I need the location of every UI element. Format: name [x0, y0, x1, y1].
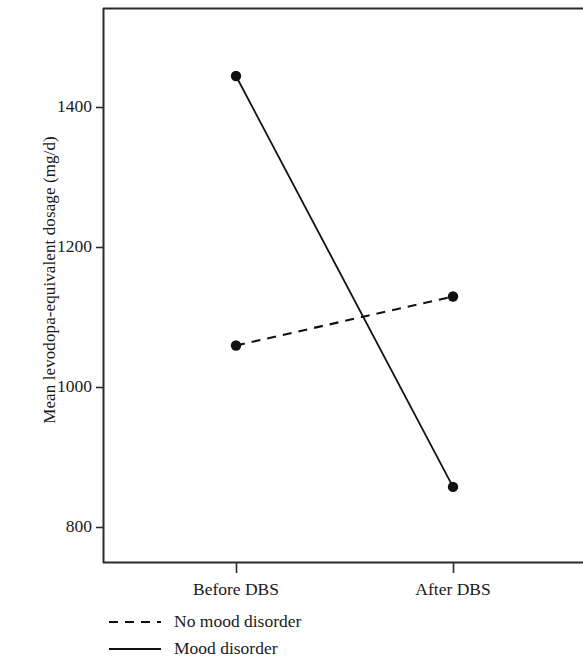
chart-figure: Mean levodopa-equivalent dosage (mg/d) 1… — [0, 0, 583, 664]
plot-canvas — [0, 0, 583, 664]
legend-solid-line-icon — [108, 642, 162, 656]
series-mood-disorder-line — [236, 76, 453, 487]
legend-label-no-mood-disorder: No mood disorder — [174, 613, 301, 631]
data-point-no-mood-disorder-after — [448, 291, 458, 301]
legend-dashed-line-icon — [108, 615, 162, 629]
series-no-mood-disorder — [231, 291, 458, 350]
y-tick-marks — [96, 108, 103, 528]
legend-item-no-mood-disorder: No mood disorder — [108, 608, 301, 635]
x-tick-marks — [237, 563, 454, 573]
data-point-mood-disorder-after — [448, 482, 458, 492]
legend: No mood disorder Mood disorder — [108, 608, 301, 662]
data-point-no-mood-disorder-before — [231, 340, 241, 350]
axes-frame — [103, 8, 583, 563]
data-point-mood-disorder-before — [231, 71, 241, 81]
legend-item-mood-disorder: Mood disorder — [108, 635, 301, 662]
legend-label-mood-disorder: Mood disorder — [174, 640, 278, 658]
series-mood-disorder — [231, 71, 458, 492]
series-no-mood-disorder-line — [236, 297, 453, 346]
